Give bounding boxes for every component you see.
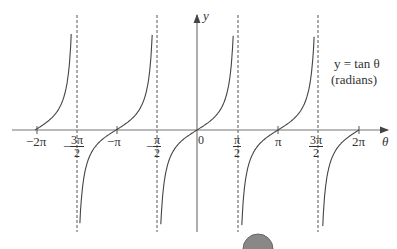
x-axis-label: θ bbox=[382, 134, 388, 150]
y-axis-label: y bbox=[203, 8, 209, 24]
tick-label-neg-3pi-2: 3π2 bbox=[70, 134, 84, 159]
tick-label-neg-2pi: −2π bbox=[26, 134, 46, 150]
equation-label: y = tan θ bbox=[334, 56, 380, 72]
tan-branch bbox=[35, 34, 71, 130]
tick-label-pi: π bbox=[275, 134, 282, 150]
decorative-circle-fragment bbox=[243, 234, 273, 249]
tick-label-pi-2: π2 bbox=[233, 134, 241, 159]
tick-label-neg-pi: −π bbox=[107, 134, 121, 150]
tan-branch bbox=[80, 35, 152, 223]
tick-label-neg-pi-2: π2 bbox=[153, 134, 161, 159]
tick-label-origin: 0 bbox=[198, 133, 204, 148]
radians-label: (radians) bbox=[331, 72, 377, 88]
tick-label-3pi-2: 3π2 bbox=[309, 134, 323, 159]
tick-label-2pi: 2π bbox=[352, 134, 365, 150]
tan-graph bbox=[0, 0, 397, 249]
